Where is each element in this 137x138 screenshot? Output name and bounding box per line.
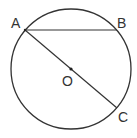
label-o: O (62, 73, 73, 89)
circle-diagram: A B O C (0, 0, 137, 138)
label-b: B (117, 15, 126, 31)
label-c: C (118, 109, 128, 125)
point-a-dot (24, 29, 26, 31)
center-point (69, 67, 72, 70)
label-a: A (11, 15, 21, 31)
